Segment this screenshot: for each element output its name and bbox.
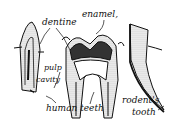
label-rodents: rodent's xyxy=(122,96,159,105)
tooth-diagram: dentine enamel, pulp cavity human teeth … xyxy=(0,0,182,128)
label-enamel: enamel, xyxy=(82,10,118,19)
label-dentine: dentine xyxy=(42,18,77,27)
label-cavity: cavity xyxy=(36,76,60,84)
label-tooth: tooth xyxy=(132,108,156,117)
label-human-teeth: human teeth xyxy=(46,104,104,113)
label-pulp: pulp xyxy=(44,64,62,72)
